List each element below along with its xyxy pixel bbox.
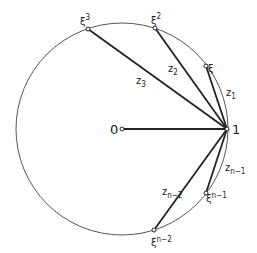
chord-z2 [155,28,227,129]
origin-point [120,127,124,131]
chord-z1 [206,66,227,129]
roots-of-unity-diagram: 0 1 ξ3 ξ2 ξ ξn−1 ξn−2 z3 z2 z1 zn−1 zn−2 [0,0,257,253]
xi2-label: ξ2 [151,12,161,27]
one-label: 1 [232,122,240,137]
xi3-label: ξ3 [80,13,90,28]
one-point [225,127,229,131]
z2-label: z2 [168,62,178,77]
z1-label: z1 [226,86,236,101]
chord-zn2 [154,129,227,230]
z3-label: z3 [136,74,146,89]
origin-label: 0 [110,122,118,137]
chord-zn1 [206,129,227,193]
xin2-point [152,228,156,232]
xin2-label: ξn−2 [151,235,172,249]
xi-label: ξ [208,62,214,75]
zn1-label: zn−1 [225,161,245,176]
xin1-label: ξn−1 [206,191,227,205]
zn2-label: zn−2 [162,185,182,200]
chord-z3 [88,29,227,129]
xi3-point [86,27,90,31]
